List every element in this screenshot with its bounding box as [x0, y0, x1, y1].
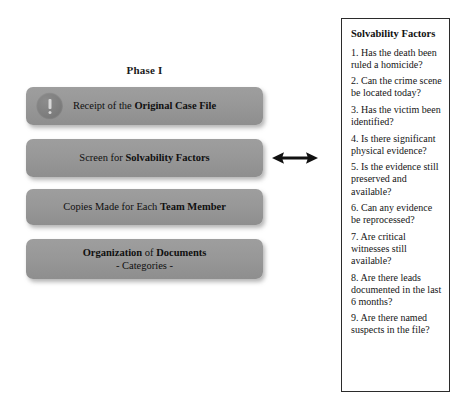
flow-box-label: Screen for Solvability Factors: [73, 151, 215, 164]
factor-item: 9. Are there named suspects in the file?: [351, 312, 442, 336]
double-headed-arrow-icon: [271, 150, 319, 166]
alert-circle-icon: [36, 93, 63, 120]
factor-item: 2. Can the crime scene be located today?: [351, 75, 442, 99]
flow-box-organization-of-documents[interactable]: Organization of Documents- Categories -: [26, 239, 263, 279]
factor-item: 3. Has the victim been identified?: [351, 104, 442, 128]
factor-item: 1. Has the death been ruled a homicide?: [351, 47, 442, 71]
flow-box-screen-solvability-factors[interactable]: Screen for Solvability Factors: [26, 139, 263, 177]
factor-item: 8. Are there leads documented in the las…: [351, 272, 442, 308]
factor-item: 5. Is the evidence still preserved and a…: [351, 161, 442, 197]
factor-item: 6. Can any evidence be reprocessed?: [351, 202, 442, 226]
factor-item: 4. Is there significant physical evidenc…: [351, 133, 442, 157]
flow-box-label: Copies Made for Each Team Member: [57, 200, 232, 213]
flow-box-copies-each-team-member[interactable]: Copies Made for Each Team Member: [26, 189, 263, 225]
diagram-canvas: Phase I Receipt of the Original Case Fil…: [0, 0, 460, 410]
flow-box-label: Receipt of the Original Case File: [67, 99, 222, 112]
solvability-factors-panel: Solvability Factors 1. Has the death bee…: [341, 18, 450, 392]
flow-box-label: Organization of Documents- Categories -: [77, 246, 213, 272]
panel-title: Solvability Factors: [351, 28, 442, 41]
factor-item: 7. Are critical witnesses still availabl…: [351, 231, 442, 267]
flow-box-receipt-original-case-file[interactable]: Receipt of the Original Case File: [26, 87, 263, 125]
phase-title: Phase I: [26, 64, 263, 76]
